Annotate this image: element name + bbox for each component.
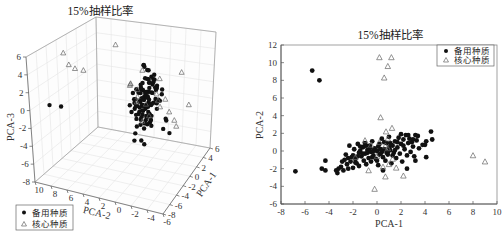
data-point-filled-circle — [353, 160, 358, 165]
tick-mark — [176, 195, 179, 196]
data-point-filled-circle — [163, 117, 167, 121]
chart-title: 15%抽样比率 — [357, 28, 422, 41]
data-point-filled-circle — [360, 151, 365, 156]
legend-label: 核心种质 — [32, 219, 68, 229]
data-point-filled-circle — [148, 80, 152, 84]
data-point-filled-circle — [375, 158, 380, 163]
data-point-filled-circle — [132, 138, 136, 142]
data-point-filled-circle — [131, 91, 135, 95]
y-tick-label: 10 — [35, 185, 45, 195]
data-point-open-triangle — [380, 164, 386, 169]
data-point-filled-circle — [411, 144, 416, 149]
data-point-open-triangle — [383, 174, 389, 179]
y-axis-label: PCA-2 — [254, 111, 265, 139]
z-tick-label: 6 — [17, 52, 22, 62]
data-point-filled-circle — [417, 146, 422, 151]
data-point-filled-circle — [340, 159, 345, 164]
data-point-filled-circle — [415, 134, 420, 139]
scatter-3d-chart: 15%抽样比率 6420-2-4-6-81086420-2-4-66420-2-… — [5, 4, 220, 230]
y-tick-label: -4 — [147, 213, 155, 223]
y-axis-label: PCA-2 — [82, 204, 112, 221]
data-point-filled-circle — [406, 133, 411, 138]
data-point-filled-circle — [142, 126, 146, 130]
data-point-open-triangle — [366, 168, 372, 173]
x-tick-label: -4 — [325, 207, 333, 217]
y-tick-label: 6 — [273, 93, 278, 103]
x-tick-label: -6 — [175, 201, 183, 211]
data-point-filled-circle — [160, 87, 164, 91]
data-point-filled-circle — [401, 143, 406, 148]
data-point-filled-circle — [357, 164, 362, 169]
data-point-open-triangle — [383, 129, 389, 134]
tick-mark — [203, 157, 206, 158]
y-tick-label: 0 — [117, 205, 122, 215]
data-point-filled-circle — [133, 131, 137, 135]
data-point-filled-circle — [144, 90, 148, 94]
data-point-filled-circle — [389, 142, 394, 147]
data-point-filled-circle — [405, 153, 410, 158]
data-point-filled-circle — [378, 147, 383, 152]
data-point-filled-circle — [323, 168, 328, 173]
data-point-filled-circle — [405, 166, 410, 171]
data-point-filled-circle — [317, 78, 322, 83]
legend: 备用种质 核心种质 — [16, 205, 73, 230]
data-point-filled-circle — [341, 168, 346, 173]
tick-mark — [183, 186, 186, 187]
data-point-open-triangle — [385, 63, 391, 68]
data-point-open-triangle — [372, 186, 378, 191]
filled-circle-icon — [22, 211, 26, 215]
z-axis-label: PCA-3 — [5, 113, 16, 141]
x-tick-label: 6 — [447, 207, 452, 217]
data-point-filled-circle — [146, 68, 150, 72]
x-axis-label: PCA-1 — [375, 218, 403, 229]
data-point-filled-circle — [59, 104, 63, 108]
scatter-2d-chart: 15%抽样比率 -8-6-4-20246810-6-4-2024681012 P… — [254, 28, 502, 229]
x-tick-label: -2 — [349, 207, 357, 217]
data-point-filled-circle — [146, 95, 150, 99]
data-point-filled-circle — [399, 132, 404, 137]
data-point-filled-circle — [141, 63, 145, 67]
data-point-filled-circle — [346, 166, 351, 171]
data-point-open-triangle — [482, 159, 488, 164]
data-point-open-triangle — [401, 173, 407, 178]
data-point-filled-circle — [160, 92, 164, 96]
data-point-filled-circle — [153, 85, 157, 89]
data-point-filled-circle — [47, 103, 51, 107]
z-tick-label: -6 — [21, 159, 29, 169]
data-point-filled-circle — [150, 91, 154, 95]
data-point-filled-circle — [134, 113, 138, 117]
tick-mark — [170, 205, 173, 206]
tick-labels: -8-6-4-20246810-6-4-2024681012 — [268, 40, 502, 217]
data-point-open-triangle — [393, 165, 399, 170]
data-point-filled-circle — [401, 137, 406, 142]
data-point-filled-circle — [134, 117, 138, 121]
x-tick-label: 4 — [423, 207, 428, 217]
data-point-filled-circle — [129, 110, 133, 114]
legend-label: 备用种质 — [32, 208, 68, 218]
data-point-filled-circle — [351, 165, 356, 170]
x-tick-label: 6 — [215, 144, 220, 154]
data-point-filled-circle — [408, 149, 413, 154]
z-tick-label: -4 — [20, 141, 28, 151]
data-point-filled-circle — [310, 68, 315, 73]
data-point-filled-circle — [293, 169, 298, 174]
data-point-filled-circle — [429, 129, 434, 134]
data-point-filled-circle — [167, 131, 171, 135]
data-point-filled-circle — [395, 140, 400, 145]
x-tick-label: 2 — [202, 163, 207, 173]
data-point-filled-circle — [369, 159, 374, 164]
y-tick-label: 12 — [268, 40, 277, 50]
data-point-filled-circle — [138, 83, 142, 87]
y-tick-label: -6 — [270, 199, 278, 209]
x-tick-label: -6 — [301, 207, 309, 217]
data-point-filled-circle — [365, 150, 370, 155]
y-tick-label: -4 — [270, 181, 278, 191]
y-tick-label: -2 — [131, 209, 139, 219]
data-points — [293, 55, 488, 192]
y-tick-label: 10 — [268, 58, 278, 68]
data-point-filled-circle — [139, 138, 143, 142]
y-tick-label: -2 — [270, 164, 278, 174]
data-point-open-triangle — [378, 115, 384, 120]
data-point-filled-circle — [352, 147, 357, 152]
x-tick-label: 4 — [208, 153, 213, 163]
